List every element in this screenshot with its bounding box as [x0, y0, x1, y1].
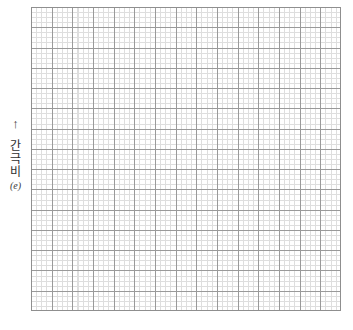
y-axis-label: ↑ 간 극 비 (e) [0, 118, 31, 202]
y-axis-label-char-3: 비 [10, 166, 21, 179]
up-arrow-icon: ↑ [12, 118, 19, 140]
y-axis-symbol: (e) [10, 180, 21, 192]
plot-grid-area [31, 7, 341, 311]
graph-paper-figure: ↑ 간 극 비 (e) [0, 0, 353, 330]
